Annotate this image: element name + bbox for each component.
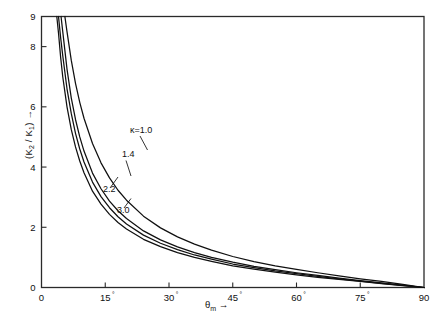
annotation-leader-line xyxy=(140,136,148,150)
svg-text:90: 90 xyxy=(419,292,430,303)
x-axis-arrow-icon: → xyxy=(219,299,229,310)
svg-text:30: 30 xyxy=(164,292,175,303)
annotation-leader-line xyxy=(126,161,131,177)
x-tick-label: 30° xyxy=(164,291,179,304)
curve-1.0 xyxy=(65,17,424,288)
curve-annotation: 2.2 xyxy=(103,184,116,194)
x-axis-sub-m: m xyxy=(210,305,216,312)
y-axis-label-mid: / K xyxy=(23,130,34,145)
svg-text:45: 45 xyxy=(227,292,238,303)
y-axis-sub-1: 1 xyxy=(28,126,35,130)
plot-area: 024689015°30°45°60°75°90κ=1.01.42.23.0 xyxy=(0,0,439,319)
y-axis-label: (K2 / K1) → xyxy=(23,89,36,179)
x-tick-label: 45° xyxy=(227,291,242,304)
svg-text:75: 75 xyxy=(355,292,366,303)
svg-text:0: 0 xyxy=(39,292,44,303)
y-axis-label-text: (K xyxy=(23,149,34,159)
y-tick-label: 9 xyxy=(30,11,35,22)
curve-annotation: 3.0 xyxy=(117,205,130,215)
x-axis-label: θm → xyxy=(205,299,228,312)
svg-text:°: ° xyxy=(367,291,370,298)
svg-text:°: ° xyxy=(240,291,243,298)
y-tick-label: 0 xyxy=(30,282,35,293)
x-tick-label: 60° xyxy=(291,291,306,304)
plot-frame xyxy=(42,17,425,288)
svg-text:°: ° xyxy=(112,291,115,298)
curve-annotation: κ=1.0 xyxy=(130,125,152,135)
svg-text:60: 60 xyxy=(291,292,302,303)
curve-1.4 xyxy=(61,17,424,288)
x-tick-label: 0 xyxy=(39,292,44,303)
svg-text:°: ° xyxy=(176,291,179,298)
curve-3.0 xyxy=(57,17,424,288)
x-tick-label: 75° xyxy=(355,291,370,304)
y-axis-sub-2: 2 xyxy=(28,145,35,149)
y-axis-label-tail: ) → xyxy=(23,110,34,126)
x-tick-label: 15° xyxy=(100,291,115,304)
curve-annotation: 1.4 xyxy=(122,149,135,159)
y-tick-label: 8 xyxy=(30,41,35,52)
svg-text:15: 15 xyxy=(100,292,111,303)
curve-2.2 xyxy=(59,17,425,288)
svg-text:°: ° xyxy=(303,291,306,298)
x-tick-label: 90 xyxy=(419,292,430,303)
chart-figure: (K2 / K1) → θm → 024689015°30°45°60°75°9… xyxy=(0,0,439,319)
y-tick-label: 2 xyxy=(30,222,35,233)
